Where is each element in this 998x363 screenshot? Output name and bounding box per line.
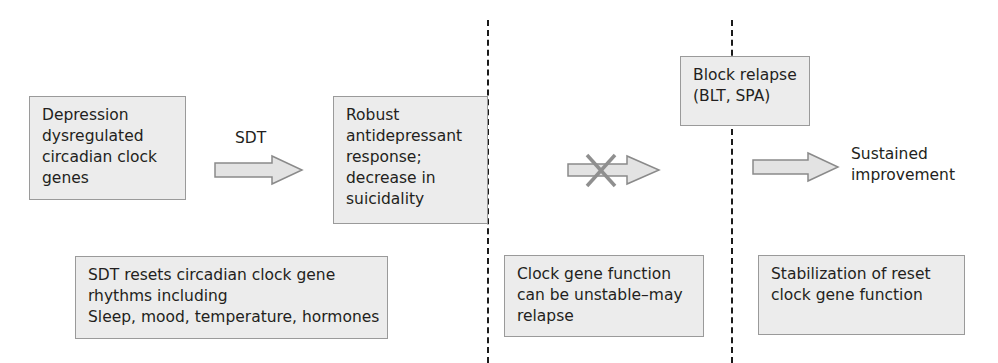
box-sdt-resets: SDT resets circadian clock gene rhythms … [75, 256, 388, 339]
blocked-arrow-icon [567, 150, 661, 190]
box-block-relapse: Block relapse (BLT, SPA) [680, 56, 810, 126]
box-depression: Depression dysregulated circadian clock … [29, 96, 186, 200]
arrow-label-sdt: SDT [235, 128, 266, 149]
box-response: Robust antidepressant response; decrease… [333, 96, 488, 224]
arrow-right-icon [214, 155, 304, 185]
box-stabilization: Stabilization of reset clock gene functi… [758, 255, 965, 335]
outcome-label: Sustained improvement [851, 144, 955, 186]
box-unstable: Clock gene function can be unstable–may … [504, 255, 704, 337]
arrow-right-icon [752, 152, 842, 182]
